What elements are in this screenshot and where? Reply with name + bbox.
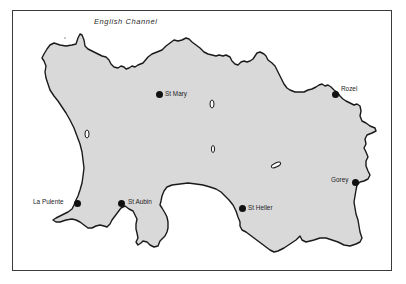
reservoir-central [211,146,214,153]
island-landmass [42,34,376,252]
reservoir-north [210,100,214,108]
town-marker-la-pulente [74,200,81,207]
town-marker-gorey [352,179,359,186]
town-marker-st-heller [239,205,246,212]
town-marker-rozel [332,91,339,98]
place-label-la-pulente: La Pulente [33,199,64,205]
place-label-st-heller: St Heller [248,205,273,211]
jersey-island-map [0,0,406,284]
place-label-st-mary: St Mary [165,91,187,97]
place-label-rozel: Rozel [341,86,357,92]
town-marker-st-aubin [118,200,125,207]
islet-nw [64,37,65,38]
place-label-gorey: Gorey [331,177,348,183]
reservoir-west [85,130,89,138]
sea-label-english-channel: English Channel [94,17,158,26]
town-marker-st-mary [156,91,163,98]
place-label-st-aubin: St Aubin [128,199,152,205]
